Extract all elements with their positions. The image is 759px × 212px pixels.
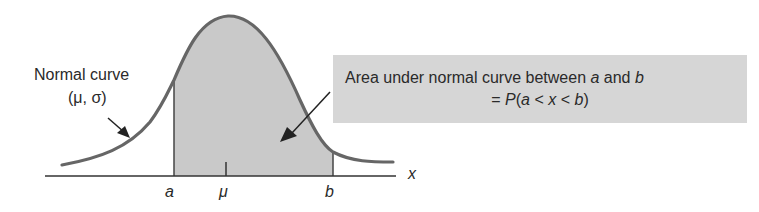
callout-P: P (505, 91, 516, 108)
tick-label-b: b (325, 182, 334, 201)
tick-label-a: a (165, 182, 174, 201)
callout-lt1: < (530, 91, 548, 108)
callout-eq-a: a (521, 91, 530, 108)
curve-label-line1: Normal curve (34, 65, 129, 84)
curve-label: Normal curve (μ, σ) (34, 65, 129, 107)
curve-label-line2: (μ, σ) (68, 88, 129, 107)
tick-label-mu: μ (219, 182, 228, 201)
callout-lt2: < (556, 91, 574, 108)
callout-var-b: b (635, 69, 644, 86)
callout-equals: = (491, 91, 505, 108)
callout-and: and (599, 69, 635, 86)
callout-line1: Area under normal curve between a and b (345, 69, 644, 87)
shaded-area-a-to-b (174, 16, 333, 176)
callout-line2: = P(a < x < b) (333, 91, 747, 109)
callout-box: Area under normal curve between a and b … (333, 55, 747, 123)
x-axis-label: x (408, 164, 416, 183)
callout-text: Area under normal curve between (345, 69, 590, 86)
callout-paren-close: ) (583, 91, 588, 108)
